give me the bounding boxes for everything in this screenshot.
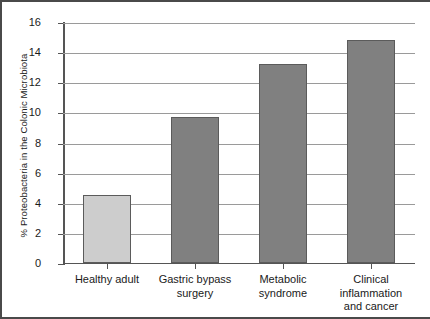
x-tick-label: Healthy adult [63,273,151,287]
y-tick-label: 0 [1,258,41,269]
y-tick-label: 10 [1,107,41,118]
x-tick-label-line: Gastric bypass [151,273,239,287]
x-tick-label-line: inflammation [327,287,415,301]
x-tick-label: Gastric bypasssurgery [151,273,239,300]
y-tick-mark [58,204,63,205]
y-tick-mark [58,83,63,84]
y-tick-label: 4 [1,198,41,209]
bar [171,117,219,263]
y-tick-mark [58,144,63,145]
x-tick-label: Metabolic syndrome [239,273,327,300]
y-tick-label: 6 [1,168,41,179]
y-tick-mark [58,174,63,175]
bar [83,195,131,263]
x-tick-mark [283,264,284,269]
x-tick-label-line: Healthy adult [63,273,151,287]
y-tick-mark [58,23,63,24]
bar [347,40,395,263]
gridline [63,23,415,24]
x-tick-label-line: Metabolic syndrome [239,273,327,300]
y-tick-mark [58,264,63,265]
y-tick-label: 12 [1,77,41,88]
y-tick-mark [58,234,63,235]
x-tick-mark [371,264,372,269]
y-tick-mark [58,113,63,114]
y-tick-label: 2 [1,228,41,239]
figure-panel: % Proteobacteria in the Colonic Microbio… [0,0,430,319]
y-tick-label: 14 [1,47,41,58]
y-tick-label: 16 [1,17,41,28]
plot-area: 0246810121416 Healthy adultGastric bypas… [63,23,415,264]
x-tick-mark [107,264,108,269]
x-tick-mark [195,264,196,269]
bar [259,64,307,263]
y-tick-mark [58,53,63,54]
x-tick-label-line: and cancer [327,300,415,314]
x-tick-label-line: surgery [151,287,239,301]
x-tick-label: Clinicalinflammationand cancer [327,273,415,314]
x-tick-label-line: Clinical [327,273,415,287]
y-tick-label: 8 [1,138,41,149]
